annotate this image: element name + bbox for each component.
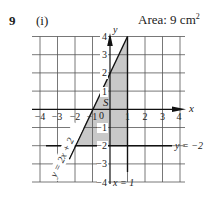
svg-text:y = 2x + 2: y = 2x + 2 <box>47 136 76 180</box>
y-axis-label: y <box>112 24 118 35</box>
label-x-equals-1: x = 1 <box>112 177 134 188</box>
origin-label: 0 <box>99 110 104 121</box>
coordinate-plane: y x S 0 −4 −3 −2 −1 1 2 3 4 4 3 2 1 −1 −… <box>0 0 213 197</box>
x-axis-label: x <box>188 102 194 114</box>
svg-text:−4: −4 <box>96 177 107 188</box>
graph-figure: 9 (i) Area: 9 cm2 <box>0 0 213 197</box>
y-axis-arrow-icon <box>107 33 113 46</box>
svg-text:−2: −2 <box>70 111 81 122</box>
label-y-equals-2x-plus-2: y = 2x + 2 <box>47 122 84 181</box>
svg-text:−1: −1 <box>87 111 98 122</box>
svg-text:2: 2 <box>143 111 148 122</box>
svg-text:1: 1 <box>125 111 130 122</box>
region-label-s: S <box>103 96 109 108</box>
svg-text:4: 4 <box>102 31 107 42</box>
svg-text:−3: −3 <box>52 111 63 122</box>
svg-text:−4: −4 <box>35 111 46 122</box>
svg-text:2: 2 <box>102 67 107 78</box>
svg-text:−2: −2 <box>96 140 107 151</box>
svg-text:1: 1 <box>102 86 107 97</box>
svg-text:4: 4 <box>177 111 182 122</box>
svg-text:3: 3 <box>160 111 165 122</box>
svg-text:3: 3 <box>102 49 107 60</box>
svg-text:−1: −1 <box>96 122 107 133</box>
label-y-equals-minus-2: y = −2 <box>174 140 203 151</box>
svg-text:−3: −3 <box>96 158 107 169</box>
